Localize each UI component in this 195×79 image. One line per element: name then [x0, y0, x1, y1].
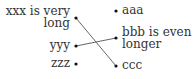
dot-aaa — [114, 9, 117, 12]
dot-ccc — [114, 64, 117, 67]
left-label-zzz: zzz — [51, 57, 70, 69]
matching-diagram: xxx is very long yyy zzz aaa bbb is even… — [0, 0, 195, 79]
dot-zzz — [74, 62, 77, 65]
dot-yyy — [74, 44, 77, 47]
right-label-aaa: aaa — [122, 4, 143, 16]
left-label-xxx-line2: long — [44, 17, 70, 29]
connector-yyy-bbb — [76, 38, 116, 46]
dot-xxx — [74, 16, 77, 19]
dot-bbb — [114, 36, 117, 39]
right-label-ccc: ccc — [122, 59, 142, 71]
left-label-yyy: yyy — [50, 39, 70, 51]
right-label-bbb-line2: longer — [122, 38, 161, 50]
